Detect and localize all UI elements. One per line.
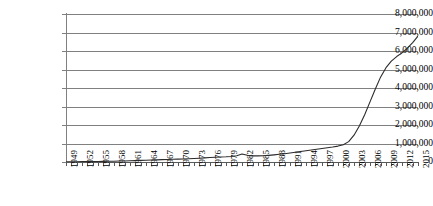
x-tick-mark <box>178 162 179 166</box>
series-line <box>66 14 418 162</box>
x-tick-mark <box>258 162 259 166</box>
x-tick-mark <box>146 162 147 166</box>
x-tick-mark <box>370 162 371 166</box>
x-tick-mark <box>130 162 131 166</box>
x-tick-mark <box>210 162 211 166</box>
x-tick-mark <box>82 162 83 166</box>
x-tick-mark <box>418 162 419 166</box>
x-tick-mark <box>306 162 307 166</box>
line-chart: 8,000,0007,000,0006,000,0005,000,0004,00… <box>0 0 433 206</box>
x-tick-mark <box>322 162 323 166</box>
x-tick-mark <box>242 162 243 166</box>
x-tick-mark <box>402 162 403 166</box>
x-tick-mark <box>386 162 387 166</box>
x-tick-mark <box>290 162 291 166</box>
x-tick-mark <box>194 162 195 166</box>
x-tick-mark <box>354 162 355 166</box>
x-tick-label: 2015 <box>422 150 431 168</box>
series-path <box>66 36 418 162</box>
x-tick-mark <box>274 162 275 166</box>
x-tick-mark <box>226 162 227 166</box>
x-tick-mark <box>338 162 339 166</box>
x-tick-mark <box>114 162 115 166</box>
x-tick-mark <box>98 162 99 166</box>
x-tick-mark <box>66 162 67 166</box>
x-tick-mark <box>162 162 163 166</box>
